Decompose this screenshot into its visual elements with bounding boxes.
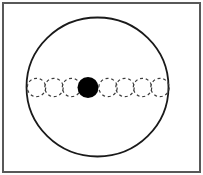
ball-positions-diagram [0,0,203,175]
ball-filled-position [78,77,99,98]
diagram-canvas [0,0,203,175]
outer-frame [3,3,200,172]
